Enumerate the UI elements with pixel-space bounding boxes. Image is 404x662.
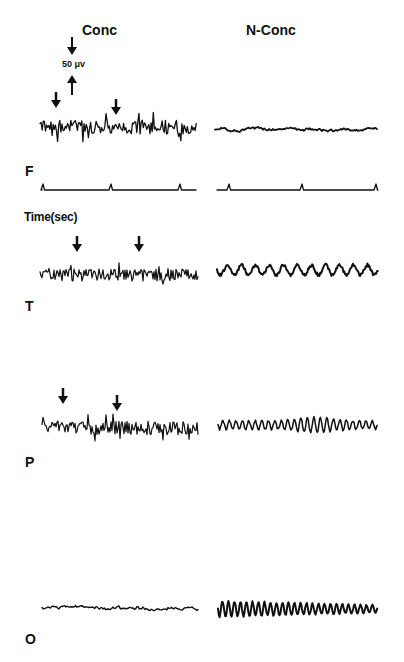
trace-f-conc: [40, 112, 196, 142]
trace-p-conc: [42, 414, 198, 441]
trace-f-nconc: [215, 127, 377, 132]
scale-bar-arrows: [67, 37, 77, 95]
event-arrow-icons: [51, 92, 144, 411]
trace-t-nconc: [217, 264, 378, 277]
trace-o-nconc: [218, 601, 377, 617]
time-marker-conc: [41, 184, 196, 190]
trace-o-conc: [42, 606, 198, 611]
eeg-traces: [0, 0, 404, 662]
trace-t-conc: [40, 263, 198, 284]
time-marker-nconc: [217, 184, 378, 190]
trace-p-nconc: [218, 417, 377, 433]
